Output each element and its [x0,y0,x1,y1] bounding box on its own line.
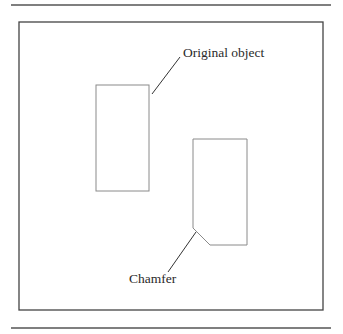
original-object-label: Original object [183,45,265,60]
chamfered-object [193,139,247,245]
original-object-rectangle [96,85,149,191]
chamfer-leader-line [168,232,196,272]
original-object-leader-line [152,57,180,94]
figure-frame [19,22,323,310]
chamfer-diagram: Original object Chamfer [0,0,343,334]
chamfer-label: Chamfer [129,271,177,286]
